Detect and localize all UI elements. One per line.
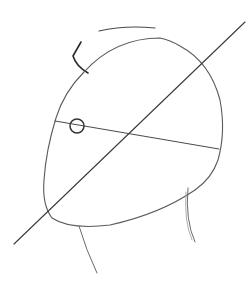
center-axis-line bbox=[14, 22, 245, 244]
sketch-canvas bbox=[0, 0, 252, 288]
hair-mark-stroke bbox=[73, 42, 88, 73]
neck-front-line bbox=[79, 226, 97, 273]
neck-back-line bbox=[187, 188, 195, 242]
skull-outline bbox=[44, 38, 223, 226]
top-arc-stroke bbox=[99, 27, 155, 31]
